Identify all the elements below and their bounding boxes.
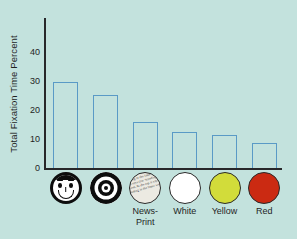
category-swatch-row: At the top it says Our Standing in the l…: [44, 171, 282, 239]
y-tick-label: 40: [30, 48, 40, 57]
category-newsprint: At the top it says Our Standing in the l…: [127, 171, 163, 227]
category-label: White: [167, 206, 203, 217]
category-white: White: [167, 171, 203, 217]
y-tick-label: 0: [35, 164, 40, 173]
bar: [133, 122, 158, 168]
fixation-time-bar-chart: Total Fixation Time Percent 403020100 At…: [0, 0, 297, 239]
y-tick-label: 20: [30, 106, 40, 115]
bullseye-icon: [90, 172, 122, 204]
red-disc-icon: [248, 172, 280, 204]
bar: [212, 135, 237, 168]
y-tick-label: 10: [30, 135, 40, 144]
category-red: Red: [246, 171, 282, 217]
category-yellow: Yellow: [207, 171, 243, 217]
category-label: News- Print: [127, 206, 163, 227]
white-disc-icon: [169, 172, 201, 204]
y-axis-title-text: Total Fixation Time Percent: [8, 35, 19, 152]
x-axis-line: [44, 168, 282, 170]
y-axis-line: [44, 18, 46, 170]
bar: [93, 95, 118, 168]
bar: [53, 82, 78, 168]
face-icon: [50, 172, 82, 204]
category-label: Red: [246, 206, 282, 217]
plot-area: 403020100: [44, 18, 282, 170]
y-tick-label: 30: [30, 77, 40, 86]
yellow-disc-icon: [209, 172, 241, 204]
y-axis-title: Total Fixation Time Percent: [4, 18, 22, 170]
category-label: Yellow: [207, 206, 243, 217]
category-face: [48, 171, 84, 206]
newsprint-icon: At the top it says Our Standing in the l…: [129, 172, 161, 204]
bar: [252, 143, 277, 168]
category-bullseye: [88, 171, 124, 206]
bar: [172, 132, 197, 168]
